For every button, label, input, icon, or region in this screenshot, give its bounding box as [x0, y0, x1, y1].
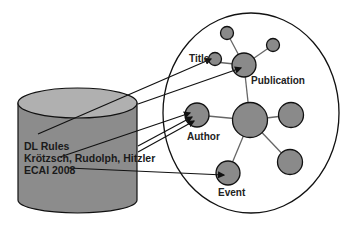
node-event	[216, 161, 240, 185]
mapping-to-publication	[138, 68, 241, 104]
node-right-small	[267, 39, 280, 52]
node-right	[279, 103, 304, 128]
node-top-small	[221, 27, 234, 40]
label-publication: Publication	[251, 75, 305, 86]
diagram-canvas: Title Publication Author Event DL Rules …	[0, 0, 354, 226]
node-publication	[232, 53, 256, 77]
node-lower-right	[278, 150, 303, 175]
label-author: Author	[187, 131, 220, 142]
db-label-line-1: DL Rules	[24, 140, 69, 152]
graph-nodes	[185, 27, 304, 186]
db-label-line-3: ECAI 2008	[24, 164, 76, 176]
label-event: Event	[218, 187, 246, 198]
db-label-line-2: Krötzsch, Rudolph, Hitzler	[24, 152, 155, 164]
label-title: Title	[189, 53, 210, 64]
mapping-to-author-3	[138, 121, 194, 152]
cylinder-top	[18, 88, 137, 118]
node-center	[233, 103, 268, 138]
